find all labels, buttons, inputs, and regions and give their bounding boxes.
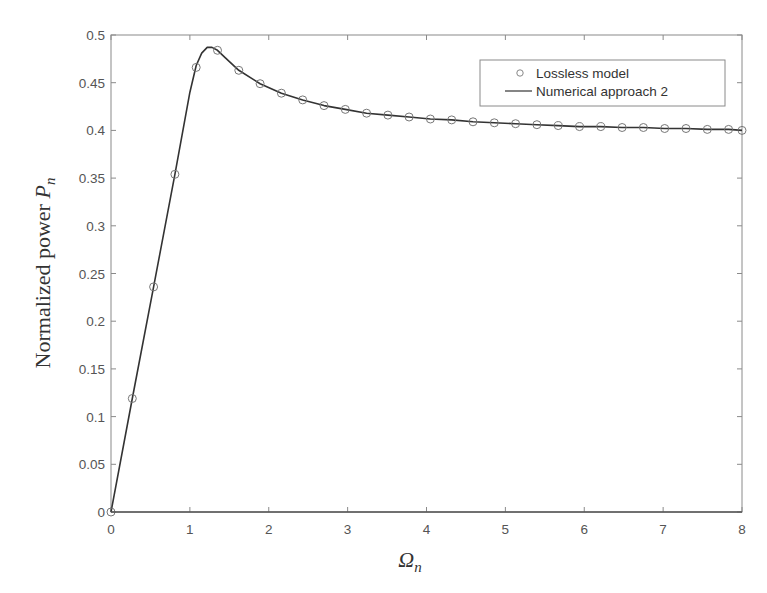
chart: 012345678 00.050.10.150.20.250.30.350.40… [0,0,767,593]
x-tick-label: 2 [265,522,273,537]
y-tick-label: 0.25 [79,267,105,282]
y-axis-title-main: Normalized power [30,199,55,369]
axes-frame [111,35,742,512]
x-axis-ticks: 012345678 [107,35,746,537]
y-tick-label: 0.2 [86,314,105,329]
y-tick-label: 0.5 [86,28,105,43]
x-tick-label: 4 [423,522,431,537]
svg-text:Normalized power Pn: Normalized power Pn [30,178,58,369]
legend-label-lossless-model: Lossless model [536,66,629,81]
y-axis-title-sub: n [42,178,58,186]
x-axis-title: Ωn [398,547,421,575]
x-axis-title-sub: n [414,559,422,575]
svg-text:Ωn: Ωn [398,547,421,575]
y-axis-title: Normalized power Pn [30,178,58,369]
y-tick-label: 0.15 [79,362,105,377]
x-tick-label: 5 [502,522,510,537]
x-tick-label: 7 [659,522,667,537]
y-tick-label: 0.1 [86,410,105,425]
y-tick-label: 0.05 [79,457,105,472]
x-tick-label: 8 [738,522,746,537]
x-tick-label: 3 [344,522,352,537]
x-tick-label: 0 [107,522,115,537]
y-tick-label: 0.4 [86,123,105,138]
x-tick-label: 1 [186,522,194,537]
x-tick-label: 6 [580,522,588,537]
y-tick-label: 0.35 [79,171,105,186]
y-tick-label: 0 [97,505,105,520]
x-axis-title-main: Ω [398,547,414,572]
y-axis-title-var: P [30,185,55,199]
legend-label-numerical-approach-2: Numerical approach 2 [536,84,668,99]
legend: Lossless model Numerical approach 2 [480,60,725,106]
y-tick-label: 0.3 [86,219,105,234]
lossless-model-markers [107,46,746,516]
y-tick-label: 0.45 [79,76,105,91]
